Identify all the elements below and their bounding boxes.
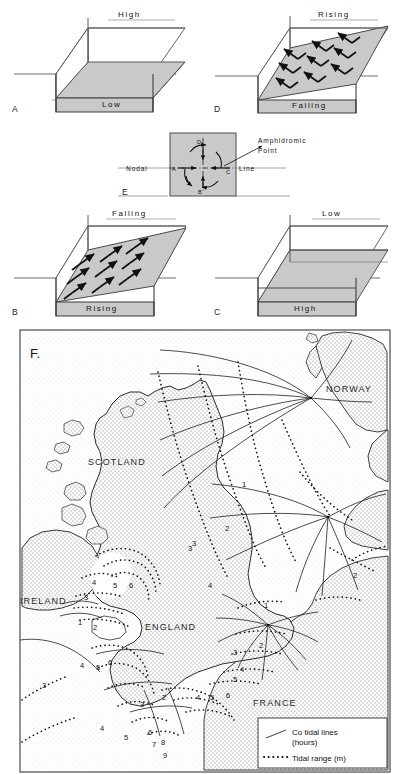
range-label-3-irishsea: 3: [84, 593, 88, 602]
cotidal-label-2-north: 2: [225, 524, 229, 533]
panel-c-letter: C: [214, 307, 220, 317]
panel-e-point-b: B: [198, 189, 202, 195]
panel-a-top-label: High: [118, 10, 141, 19]
range-label-6-sw: 6: [148, 728, 152, 737]
range-label-4-bristol: 4: [80, 661, 84, 670]
range-label-6-irishsea: 6: [129, 581, 133, 590]
amphidromic-point-north-sea: [310, 397, 312, 399]
range-label-4-northsea: 4: [208, 581, 212, 590]
amphidromic-point-german-bight: [327, 516, 329, 518]
figure-root: Low High A Fal: [0, 0, 404, 774]
panel-b-letter: B: [12, 307, 18, 317]
range-label-6-bristol: 6: [108, 658, 112, 667]
panel-e-line-label: Line: [239, 165, 255, 172]
cotidal-label-2-channel: 2: [259, 641, 263, 650]
cotidal-label-1-north: 1: [242, 480, 246, 489]
legend-cotidal-label: Co tidal lines: [292, 728, 338, 737]
range-label-5-fr: 5: [210, 693, 214, 702]
country-label-norway: NORWAY: [326, 384, 372, 394]
panel-d-letter: D: [214, 104, 220, 114]
range-label-5-channel: 5: [233, 675, 237, 684]
panel-e-nodal-label: Nodal: [126, 165, 148, 172]
panel-d-bottom-label: Falling: [292, 101, 327, 110]
panel-e-point-a: A: [172, 166, 176, 172]
range-label-4-irishsea: 4: [92, 578, 96, 587]
range-label-3-sw: 3: [140, 700, 144, 709]
range-label-7-sw: 7: [152, 740, 156, 749]
range-label-4-sw: 4: [100, 724, 104, 733]
country-label-scotland: SCOTLAND: [88, 457, 146, 467]
range-label-2-fr: 2: [162, 693, 166, 702]
country-label-england: ENGLAND: [145, 622, 196, 632]
panel-e-point-label: Point: [258, 147, 278, 154]
panel-c-bottom-label: High: [294, 304, 317, 313]
range-label-3-channel: 3: [233, 648, 237, 657]
panel-d-top-label: Rising: [318, 10, 350, 19]
range-label-9-sw: 9: [163, 751, 167, 760]
range-label-2-irishsea: 2: [93, 623, 97, 632]
cotidal-label-1-channel: 1: [264, 601, 268, 610]
range-label-5-sw: 5: [124, 733, 128, 742]
panel-c-top-label: Low: [322, 209, 341, 218]
panel-b-top-label: Falling: [112, 209, 147, 218]
range-label-4-fr: 4: [196, 693, 200, 702]
panel-a-letter: A: [12, 104, 18, 114]
map-figure-letter: F.: [30, 346, 40, 361]
panel-f-map: F. NORWAY SCOTLAND IRELAND ENGLAND FRANC…: [20, 330, 390, 772]
range-label-3-northsea: 3: [192, 539, 196, 548]
range-label-6-fr: 6: [226, 691, 230, 700]
range-label-5-irishsea: 5: [113, 581, 117, 590]
country-label-ireland: IRELAND: [20, 596, 67, 606]
map-legend: Co tidal lines (hours) Tidal range (m): [258, 718, 387, 768]
panel-a-bottom-label: Low: [102, 100, 121, 109]
range-label-1-irishsea: 1: [78, 618, 82, 627]
legend-range-label: Tidal range (m): [292, 754, 346, 763]
range-label-8-sw: 8: [161, 738, 165, 747]
legend-cotidal-units: (hours): [292, 738, 318, 747]
panel-b-bottom-label: Rising: [86, 304, 118, 313]
country-label-france: FRANCE: [253, 698, 297, 708]
panel-e-amphidromic-label: Amphidromic: [258, 137, 306, 145]
range-label-3-atlantic: 3: [42, 681, 46, 690]
panel-e-point-d: D: [197, 139, 201, 145]
range-label-5-bristol: 5: [96, 663, 100, 672]
amphidromic-point-southern-bight: [267, 624, 269, 626]
cotidal-label-2-east: 2: [353, 571, 357, 580]
panel-e-point-c: C: [226, 169, 230, 175]
range-label-4-channel: 4: [240, 665, 244, 674]
panel-e-letter: E: [122, 187, 128, 197]
